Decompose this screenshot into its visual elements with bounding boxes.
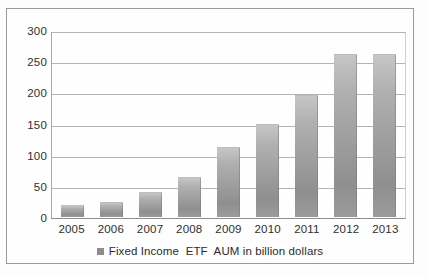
bar-2011[interactable] — [295, 95, 318, 217]
y-axis-tick-label: 300 — [5, 26, 47, 38]
x-axis-tick-label: 2007 — [130, 223, 169, 235]
x-axis: 200520062007200820092010201120122013 — [52, 223, 405, 235]
legend-label: Fixed Income ETF AUM in billion dollars — [109, 245, 323, 257]
y-axis-tick-label: 50 — [5, 182, 47, 194]
bar-2007[interactable] — [139, 192, 162, 217]
bar-slot — [287, 33, 326, 217]
bar-slot — [248, 33, 287, 217]
bar-slot — [170, 33, 209, 217]
y-axis-tick-label: 0 — [5, 213, 47, 225]
y-axis-tick-label: 250 — [5, 57, 47, 69]
bar-2013[interactable] — [373, 54, 396, 217]
x-axis-tick-label: 2008 — [170, 223, 209, 235]
bar-slot — [53, 33, 92, 217]
bar-series — [53, 33, 404, 217]
bar-slot — [131, 33, 170, 217]
y-axis-tick-label: 100 — [5, 151, 47, 163]
bar-slot — [92, 33, 131, 217]
bar-2009[interactable] — [217, 147, 240, 217]
x-axis-tick-label: 2010 — [248, 223, 287, 235]
legend-square-icon — [97, 248, 104, 255]
bar-slot — [365, 33, 404, 217]
x-axis-tick-label: 2012 — [327, 223, 366, 235]
x-axis-tick-label: 2009 — [209, 223, 248, 235]
bar-2008[interactable] — [178, 177, 201, 217]
x-axis-tick-label: 2011 — [287, 223, 326, 235]
x-axis-tick-label: 2006 — [91, 223, 130, 235]
bar-2010[interactable] — [256, 124, 279, 217]
y-axis-tick-label: 200 — [5, 89, 47, 101]
chart-frame: 050100150200250300 200520062007200820092… — [6, 8, 414, 264]
plot-area — [51, 32, 406, 219]
y-axis-tick-label: 150 — [5, 120, 47, 132]
bar-slot — [209, 33, 248, 217]
x-axis-tick-label: 2005 — [52, 223, 91, 235]
bar-slot — [326, 33, 365, 217]
y-axis: 050100150200250300 — [7, 32, 47, 219]
bar-2006[interactable] — [100, 202, 123, 217]
bar-2005[interactable] — [61, 205, 84, 217]
bar-2012[interactable] — [334, 54, 357, 217]
x-axis-tick-label: 2013 — [366, 223, 405, 235]
chart-legend: Fixed Income ETF AUM in billion dollars — [7, 245, 413, 257]
